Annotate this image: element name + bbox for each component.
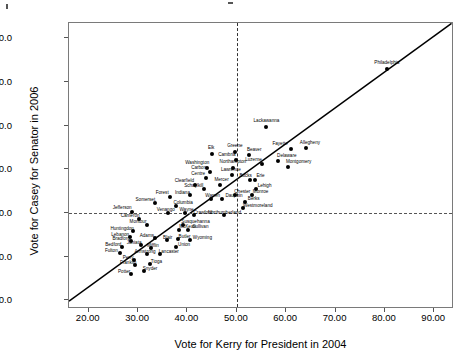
data-point-label: Fulton bbox=[105, 248, 118, 253]
data-point-label: Wayne bbox=[179, 207, 193, 212]
x-tick-label: 20.00 bbox=[76, 312, 100, 323]
data-point-label: Northumberland bbox=[208, 210, 241, 215]
y-tick-label: 40.0 bbox=[0, 250, 12, 261]
x-tick-mark bbox=[433, 308, 434, 312]
data-point-label: Fayette bbox=[272, 141, 287, 146]
x-tick-label: 40.00 bbox=[175, 312, 199, 323]
data-point bbox=[248, 178, 252, 182]
data-point-label: Columbia bbox=[173, 200, 192, 205]
x-tick-label: 90.00 bbox=[421, 312, 445, 323]
y-tick-label: 90.0 bbox=[0, 32, 12, 43]
data-point-label: Carbon bbox=[191, 165, 206, 170]
data-point-label: Lancaster bbox=[159, 249, 179, 254]
y-tick-label: 30.0 bbox=[0, 294, 12, 305]
y-tick-label: 60.0 bbox=[0, 163, 12, 174]
scan-artifact bbox=[6, 4, 8, 9]
data-point-label: Northampton bbox=[220, 159, 247, 164]
data-point-label: Mercer bbox=[214, 177, 228, 182]
x-tick-mark bbox=[186, 308, 187, 312]
data-point-label: Indiana bbox=[175, 190, 190, 195]
data-point bbox=[385, 67, 389, 71]
data-point-label: Beaver bbox=[247, 147, 262, 152]
data-point-label: Dauphin bbox=[225, 193, 242, 198]
data-point-label: Venango bbox=[157, 207, 175, 212]
plot-area: PhiladelphiaLackawannaFayetteAlleghenyGr… bbox=[68, 22, 453, 308]
y-tick-label: 80.0 bbox=[0, 75, 12, 86]
data-point-label: Crawford bbox=[194, 210, 213, 215]
data-point bbox=[253, 178, 257, 182]
data-point-label: Sullivan bbox=[192, 224, 208, 229]
x-tick-label: 70.00 bbox=[323, 312, 347, 323]
data-point bbox=[289, 147, 293, 151]
data-point-label: Jefferson bbox=[113, 205, 132, 210]
x-tick-mark bbox=[137, 308, 138, 312]
data-point-label: Monroe bbox=[253, 189, 269, 194]
x-tick-mark bbox=[335, 308, 336, 312]
data-point-label: Erie bbox=[256, 173, 264, 178]
data-point-label: Somerset bbox=[136, 197, 156, 202]
x-tick-mark bbox=[88, 308, 89, 312]
x-tick-label: 50.00 bbox=[224, 312, 248, 323]
data-point-label: Berks bbox=[248, 196, 260, 201]
data-point-label: Lackawanna bbox=[254, 118, 280, 123]
data-point bbox=[220, 197, 224, 201]
data-point-label: Armstrong bbox=[134, 249, 155, 254]
data-point-label: Lawrence bbox=[221, 167, 241, 172]
data-point bbox=[304, 146, 308, 150]
data-point-label: Franklin bbox=[120, 260, 136, 265]
data-point-label: Snyder bbox=[143, 266, 158, 271]
data-point-label: Mifflin bbox=[147, 243, 159, 248]
data-point-label: Wyoming bbox=[193, 235, 212, 240]
data-point bbox=[286, 165, 290, 169]
data-point-label: Washington bbox=[185, 160, 209, 165]
data-point-label: Lehigh bbox=[258, 183, 272, 188]
data-point-label: Union bbox=[178, 242, 190, 247]
reference-line-x-50 bbox=[237, 23, 238, 307]
x-tick-label: 30.00 bbox=[125, 312, 149, 323]
data-point-label: Elk bbox=[208, 145, 214, 150]
data-point-label: Bedford bbox=[105, 242, 121, 247]
scan-artifact bbox=[228, 2, 233, 4]
data-point-label: Schuylkill bbox=[184, 183, 203, 188]
data-point-label: Montgomery bbox=[286, 159, 312, 164]
data-point-label: Montour bbox=[130, 219, 147, 224]
data-point-label: Luzerne bbox=[245, 157, 262, 162]
data-point bbox=[260, 162, 264, 166]
data-point-label: Potter bbox=[118, 269, 130, 274]
data-point-label: Centre bbox=[191, 171, 205, 176]
data-point-label: Juniata bbox=[127, 240, 142, 245]
data-point-label: Blair bbox=[163, 235, 172, 240]
y-tick-label: 70.0 bbox=[0, 119, 12, 130]
data-point-label: Delaware bbox=[277, 153, 296, 158]
data-point-label: Philadelphia bbox=[374, 60, 399, 65]
x-tick-mark bbox=[285, 308, 286, 312]
data-point-label: Cambria bbox=[218, 152, 235, 157]
data-point-label: Forest bbox=[156, 190, 169, 195]
data-point bbox=[276, 159, 280, 163]
data-point-label: Greene bbox=[227, 143, 242, 148]
y-axis-title: Vote for Casey for Senator in 2006 bbox=[28, 41, 40, 301]
x-tick-label: 60.00 bbox=[273, 312, 297, 323]
data-point-label: Bucks bbox=[239, 173, 252, 178]
data-point-label: Adams bbox=[140, 233, 154, 238]
x-tick-label: 80.00 bbox=[372, 312, 396, 323]
data-point-label: Allegheny bbox=[300, 140, 320, 145]
x-axis-title: Vote for Kerry for President in 2004 bbox=[68, 338, 453, 350]
data-point bbox=[230, 173, 234, 177]
x-tick-mark bbox=[236, 308, 237, 312]
data-point-label: Warren bbox=[205, 193, 220, 198]
data-point-label: Westmoreland bbox=[243, 203, 273, 208]
x-tick-mark bbox=[384, 308, 385, 312]
data-point-label: Clearfield bbox=[175, 178, 194, 183]
data-point-label: Cameron bbox=[121, 213, 140, 218]
data-point-label: Huntingdon bbox=[110, 226, 134, 231]
y-tick-label: 50.0 bbox=[0, 206, 12, 217]
data-point-label: Tioga bbox=[151, 259, 162, 264]
scatter-plot-figure: Vote for Casey for Senator in 2006 90.08… bbox=[0, 0, 474, 364]
